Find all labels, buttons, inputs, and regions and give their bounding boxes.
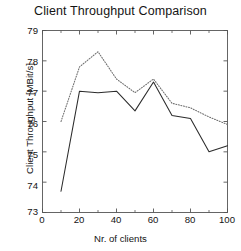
axis-frame bbox=[43, 31, 228, 213]
series-line-dotted-series bbox=[61, 52, 228, 125]
series-line-solid-series bbox=[61, 82, 228, 191]
plot-area bbox=[0, 0, 241, 251]
chart-figure: Client Throughput Comparison Client Thro… bbox=[0, 0, 241, 251]
data-series-group bbox=[61, 52, 228, 192]
axis-ticks bbox=[43, 31, 228, 213]
